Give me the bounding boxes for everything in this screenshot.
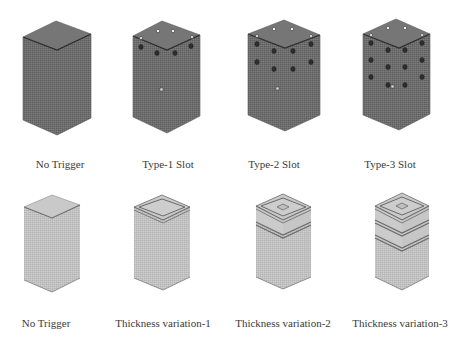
tube-type-3-slot xyxy=(363,19,430,130)
tube-no-trigger-dark xyxy=(23,21,91,135)
tubes-diagram xyxy=(0,0,454,344)
tube-thickness-variation-3 xyxy=(375,193,429,290)
tube-type-1-slot xyxy=(133,21,200,133)
label-thickness-variation-2: Thickness variation-2 xyxy=(235,317,331,329)
label-thickness-variation-1: Thickness variation-1 xyxy=(115,317,211,329)
tube-type-2-slot xyxy=(248,20,320,131)
figure: No Trigger Type-1 Slot Type-2 Slot Type-… xyxy=(0,0,454,344)
center-marker xyxy=(391,85,394,88)
label-type-2-slot: Type-2 Slot xyxy=(248,158,299,170)
center-marker xyxy=(160,88,163,91)
label-type-3-slot: Type-3 Slot xyxy=(364,158,415,170)
center-marker xyxy=(276,87,279,90)
label-type-1-slot: Type-1 Slot xyxy=(142,158,193,170)
tube-thickness-variation-2 xyxy=(256,194,311,289)
label-thickness-variation-3: Thickness variation-3 xyxy=(352,317,448,329)
label-no-trigger-bottom: No Trigger xyxy=(22,317,71,329)
tube-no-trigger-light xyxy=(24,195,80,292)
label-no-trigger-top: No Trigger xyxy=(36,158,85,170)
tube-thickness-variation-1 xyxy=(134,195,190,290)
